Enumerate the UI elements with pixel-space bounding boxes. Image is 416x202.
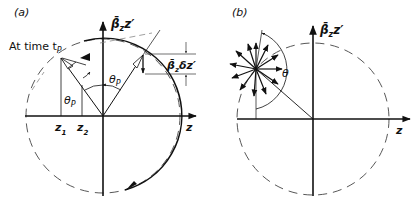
vertical-axis-label: β̄zz′ (319, 22, 344, 39)
theta-p-label-right: θP (109, 73, 121, 88)
theta-label: θ (282, 67, 289, 80)
z1-label: z1 (54, 121, 66, 137)
z2-label: z2 (76, 121, 88, 137)
horizontal-axis-label: z (185, 121, 193, 134)
panel-b: (b) β̄zz′ z θ (230, 6, 410, 196)
panel-b-label: (b) (232, 6, 248, 19)
horizontal-axis-label: z (395, 124, 403, 137)
panel-a-label: (a) (14, 6, 29, 19)
arc-arrowhead-top-icon (80, 53, 90, 61)
panel-a: (a) β̄zz′ z At time tP (9, 6, 196, 196)
theta-p-label-left: θP (64, 94, 76, 109)
vertical-axis-label: β̄zz′ (110, 16, 135, 33)
figure-canvas: (a) β̄zz′ z At time tP (0, 0, 416, 202)
open-arrowhead-icon (133, 55, 143, 68)
delta-label: β̄zδz′ (166, 59, 196, 74)
time-label: At time tP (9, 40, 62, 55)
